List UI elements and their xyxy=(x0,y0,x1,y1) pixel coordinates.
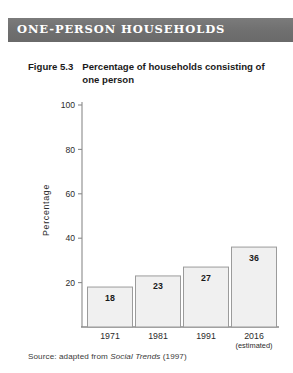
x-axis-category-note: (estimated) xyxy=(236,341,273,350)
x-axis-category-label: 1981 xyxy=(148,331,168,341)
bar xyxy=(184,267,229,327)
section-banner: ONE-PERSON HOUSEHOLDS xyxy=(8,18,293,42)
y-axis-tick-label: 40 xyxy=(65,233,75,243)
figure-title: Percentage of households consisting of o… xyxy=(82,60,278,86)
source-publication: Social Trends xyxy=(110,352,160,361)
banner-title: ONE-PERSON HOUSEHOLDS xyxy=(17,24,225,36)
x-axis-category-label: 2016 xyxy=(244,331,264,341)
x-axis-category-label: 1991 xyxy=(196,331,216,341)
source-note: Source: adapted from Social Trends (1997… xyxy=(28,352,187,361)
bar-chart: 20406080100Percentage1819712319812719913… xyxy=(0,0,293,373)
bar-value-label: 23 xyxy=(153,281,163,291)
y-axis-tick-label: 20 xyxy=(65,278,75,288)
bar-value-label: 27 xyxy=(201,273,211,283)
x-axis-category-label: 1971 xyxy=(100,331,120,341)
source-year: (1997) xyxy=(163,352,187,361)
figure-number: Figure 5.3 xyxy=(28,60,82,73)
source-prefix: Source: adapted from xyxy=(28,352,108,361)
bar xyxy=(88,287,133,327)
y-axis-title: Percentage xyxy=(41,184,51,236)
figure-page: ONE-PERSON HOUSEHOLDS Figure 5.3 Percent… xyxy=(0,0,293,373)
y-axis-tick-label: 80 xyxy=(65,145,75,155)
y-axis-tick-label: 60 xyxy=(65,189,75,199)
bar xyxy=(232,247,277,327)
bar-value-label: 36 xyxy=(249,253,259,263)
chart-canvas: 20406080100Percentage1819712319812719913… xyxy=(0,0,293,373)
y-axis-tick-label: 100 xyxy=(61,100,76,110)
bar xyxy=(136,276,181,327)
figure-caption: Figure 5.3 Percentage of households cons… xyxy=(28,60,278,86)
bar-value-label: 18 xyxy=(105,293,115,303)
